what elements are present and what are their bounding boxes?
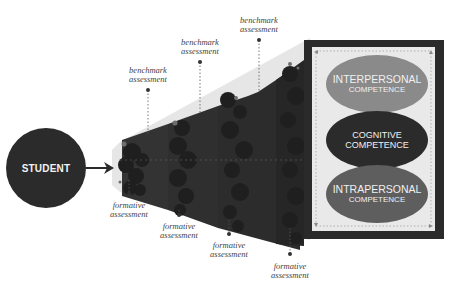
interpersonal-ellipse: INTERPERSONAL COMPETENCE <box>326 55 428 113</box>
benchmark-label-3: benchmark assessment <box>224 16 294 34</box>
formative-label-4: formative assessment <box>255 262 325 280</box>
benchmark-label-1: benchmark assessment <box>113 66 183 84</box>
cognitive-ellipse: COGNITIVE COMPETENCE <box>326 111 428 169</box>
formative-label-3: formative assessment <box>194 241 264 259</box>
competence-panel-inner: INTERPERSONAL COMPETENCE COGNITIVE COMPE… <box>312 47 435 231</box>
student-node: STUDENT <box>6 128 86 208</box>
formative-label-2: formative assessment <box>144 222 214 240</box>
benchmark-label-2: benchmark assessment <box>165 38 235 56</box>
student-label: STUDENT <box>22 163 71 174</box>
intrapersonal-ellipse: INTRAPERSONAL COMPETENCE <box>326 165 428 223</box>
competence-diagram: STUDENT benchmark assessment benchmark a… <box>0 0 461 288</box>
formative-label-1: formative assessment <box>94 201 164 219</box>
competence-panel: INTERPERSONAL COMPETENCE COGNITIVE COMPE… <box>304 40 444 239</box>
